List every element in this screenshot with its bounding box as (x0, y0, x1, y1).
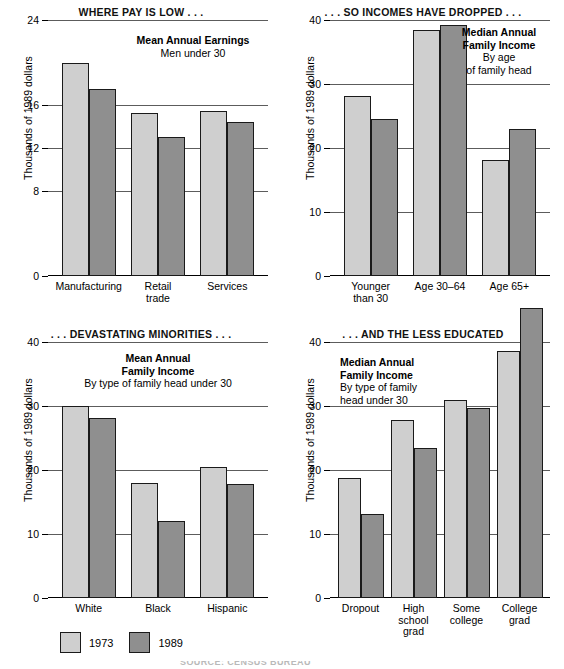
chart-panel-so-incomes-have-dropped: . . . SO INCOMES HAVE DROPPED . . .Thous… (282, 0, 564, 320)
y-tick-mark (324, 148, 330, 149)
chart-panel-devastating-minorities: . . . DEVASTATING MINORITIES . . .Thousa… (0, 322, 282, 642)
chart-caption-subtitle: By age of family head (448, 51, 550, 76)
bar-1989 (467, 408, 490, 598)
chart-caption-subtitle: Men under 30 (118, 47, 268, 60)
chart-panel-where-pay-is-low: WHERE PAY IS LOW . . .Thousands of 1989 … (0, 0, 282, 320)
y-tick-label: 10 (309, 207, 321, 218)
chart-caption-subtitle: By type of family head under 30 (340, 381, 460, 406)
plot-inner: 010203040WhiteBlackHispanicMean Annual F… (48, 342, 268, 598)
legend-label-1989: 1989 (158, 637, 182, 649)
bar-1989 (361, 514, 384, 598)
bar-1973 (444, 400, 467, 598)
chart-caption-title: Median Annual Family Income (448, 26, 550, 51)
legend-swatch-1973-icon (60, 632, 81, 653)
y-tick-mark (324, 406, 330, 407)
y-tick-mark (324, 276, 330, 277)
bar-1973 (200, 111, 227, 276)
bar-group: College grad (493, 342, 546, 598)
chart-caption: Mean Annual Family IncomeBy type of fami… (66, 352, 250, 390)
bar-1989 (89, 418, 116, 598)
y-tick-label: 0 (33, 271, 39, 282)
bar-1973 (344, 96, 371, 276)
y-tick-label: 0 (315, 271, 321, 282)
bar-1989 (227, 484, 254, 598)
legend-swatch-1989-icon (129, 632, 150, 653)
bar-1973 (131, 113, 158, 276)
chart-caption: Median Annual Family IncomeBy type of fa… (340, 356, 460, 406)
y-tick-mark (42, 406, 48, 407)
bar-1973 (62, 63, 89, 276)
bar-1989 (520, 308, 543, 598)
bar-1973 (131, 483, 158, 598)
chart-panel-and-the-less-educated: . . . AND THE LESS EDUCATEDThousands of … (282, 322, 564, 642)
y-tick-label: 10 (27, 529, 39, 540)
bar-1989 (89, 89, 116, 276)
chart-caption-title: Median Annual Family Income (340, 356, 460, 381)
y-tick-mark (42, 148, 48, 149)
chart-caption-subtitle: By type of family head under 30 (66, 377, 250, 390)
bar-1973 (391, 420, 414, 598)
x-category-label: Manufacturing (54, 281, 123, 293)
bar-1973 (338, 478, 361, 598)
y-tick-label: 20 (27, 465, 39, 476)
plot-area: 010203040WhiteBlackHispanicMean Annual F… (48, 342, 268, 598)
y-tick-mark (324, 598, 330, 599)
y-tick-mark (324, 534, 330, 535)
bar-1989 (414, 448, 437, 598)
x-category-label: Age 30–64 (405, 281, 474, 293)
y-tick-label: 20 (309, 143, 321, 154)
y-tick-mark (42, 276, 48, 277)
bar-1989 (227, 122, 254, 276)
x-category-label: Hispanic (193, 603, 262, 615)
y-tick-mark (324, 212, 330, 213)
chart-caption-title: Mean Annual Family Income (66, 352, 250, 377)
legend: 1973 1989 (60, 632, 183, 653)
y-tick-mark (324, 84, 330, 85)
x-category-label: Services (193, 281, 262, 293)
y-tick-mark (324, 470, 330, 471)
x-category-label: College grad (493, 603, 546, 626)
plot-area: 08121624ManufacturingRetail tradeService… (48, 20, 268, 276)
y-axis-title: Thousands of 1989 dollars (22, 28, 34, 208)
x-category-label: White (54, 603, 123, 615)
panel-headline: . . . SO INCOMES HAVE DROPPED . . . (282, 6, 564, 18)
plot-inner: 010203040DropoutHigh school gradSome col… (330, 342, 550, 598)
y-tick-label: 0 (315, 593, 321, 604)
y-tick-label: 40 (27, 337, 39, 348)
y-tick-label: 8 (33, 185, 39, 196)
plot-area: 010203040Younger than 30Age 30–64Age 65+… (330, 20, 550, 276)
y-tick-mark (42, 534, 48, 535)
y-tick-mark (42, 105, 48, 106)
plot-inner: 010203040Younger than 30Age 30–64Age 65+… (330, 20, 550, 276)
bar-1973 (62, 406, 89, 598)
y-axis-title: Thousands of 1989 dollars (22, 350, 34, 530)
y-tick-label: 16 (27, 100, 39, 111)
x-category-label: High school grad (387, 603, 440, 638)
bar-group: Younger than 30 (336, 20, 405, 276)
bar-1973 (482, 160, 509, 276)
y-tick-label: 0 (33, 593, 39, 604)
y-tick-label: 30 (27, 401, 39, 412)
y-tick-label: 40 (309, 337, 321, 348)
chart-caption: Mean Annual EarningsMen under 30 (118, 34, 268, 59)
y-tick-label: 10 (309, 529, 321, 540)
x-category-label: Age 65+ (475, 281, 544, 293)
x-category-label: Black (123, 603, 192, 615)
x-category-label: Some college (440, 603, 493, 626)
legend-label-1973: 1973 (89, 637, 113, 649)
y-axis-title: Thousands of 1989 dollars (304, 28, 316, 208)
y-tick-mark (42, 598, 48, 599)
y-tick-label: 24 (27, 15, 39, 26)
y-tick-label: 30 (309, 401, 321, 412)
plot-area: 010203040DropoutHigh school gradSome col… (330, 342, 550, 598)
plot-inner: 08121624ManufacturingRetail tradeService… (48, 20, 268, 276)
source-footer-text: SOURCE: CENSUS BUREAU (180, 661, 311, 667)
source-footer: SOURCE: CENSUS BUREAU (0, 661, 564, 669)
legend-item: 1973 (60, 632, 113, 653)
y-tick-mark (324, 342, 330, 343)
quad-bar-chart-figure: WHERE PAY IS LOW . . .Thousands of 1989 … (0, 0, 564, 669)
chart-caption: Median Annual Family IncomeBy age of fam… (448, 26, 550, 76)
y-tick-mark (42, 191, 48, 192)
legend-item: 1989 (129, 632, 182, 653)
y-tick-mark (324, 20, 330, 21)
